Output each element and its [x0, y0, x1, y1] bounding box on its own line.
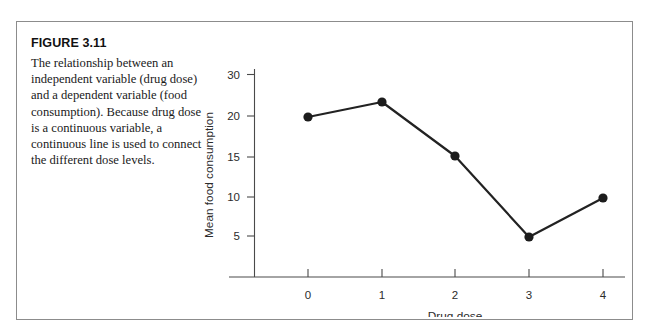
data-point-2 — [450, 151, 459, 160]
y-tick-label-5: 5 — [234, 230, 240, 242]
x-axis-ticks — [308, 269, 603, 277]
data-point-3 — [524, 232, 533, 241]
line-chart: 30 20 15 10 5 0 1 2 3 4 — [187, 27, 633, 317]
x-tick-label-1: 1 — [379, 289, 385, 301]
data-point-0 — [303, 112, 312, 121]
y-tick-label-20: 20 — [227, 110, 240, 122]
figure-frame: FIGURE 3.11 The relationship between an … — [16, 21, 633, 320]
data-point-1 — [377, 97, 386, 106]
x-tick-label-2: 2 — [452, 289, 458, 301]
series-line-mean-food-consumption — [308, 102, 603, 237]
y-tick-label-30: 30 — [227, 69, 240, 81]
x-tick-label-0: 0 — [305, 289, 311, 301]
figure-caption-text: The relationship between an independent … — [31, 55, 203, 168]
data-point-4 — [598, 193, 607, 202]
y-axis-title: Mean food consumption — [202, 112, 216, 238]
y-tick-label-10: 10 — [227, 191, 240, 203]
x-tick-label-3: 3 — [526, 289, 532, 301]
figure-caption-block: FIGURE 3.11 The relationship between an … — [31, 36, 203, 168]
x-axis-title: Drug dose — [428, 309, 483, 317]
figure-number-label: FIGURE 3.11 — [31, 36, 203, 50]
y-axis-ticks — [247, 75, 255, 237]
x-tick-label-4: 4 — [600, 289, 607, 301]
chart-svg: 30 20 15 10 5 0 1 2 3 4 — [187, 27, 633, 317]
y-tick-label-15: 15 — [227, 151, 240, 163]
